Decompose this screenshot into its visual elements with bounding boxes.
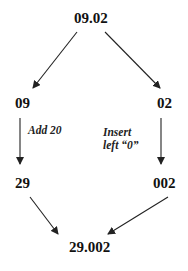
node-left-bottom: 29	[15, 176, 30, 191]
arrow-root-to-left	[33, 32, 77, 88]
edge-label-add-20: Add 20	[28, 124, 62, 137]
node-right-mid: 02	[157, 96, 172, 111]
node-result: 29.002	[69, 240, 110, 255]
node-left-mid: 09	[15, 96, 30, 111]
arrow-root-to-right	[105, 32, 160, 88]
edge-label-left-zero: left “0”	[103, 139, 138, 152]
edge-label-insert: Insert	[103, 126, 131, 139]
arrow-left-to-result	[30, 197, 58, 234]
arrow-right-to-result	[108, 197, 168, 234]
node-root: 09.02	[74, 11, 108, 26]
diagram-canvas: 09.02 09 02 Add 20 Insert left “0” 29 00…	[0, 0, 188, 271]
node-right-bottom: 002	[153, 176, 176, 191]
